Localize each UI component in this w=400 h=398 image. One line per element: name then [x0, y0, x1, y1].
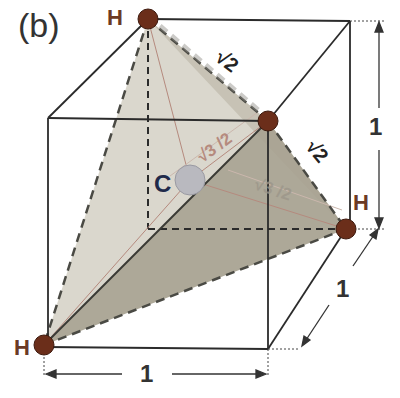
dimension-label-width: 1 — [140, 360, 153, 388]
panel-label: (b) — [18, 6, 60, 45]
hydrogen-atom-right-front — [258, 111, 278, 131]
hydrogen-atom-bottom-left — [34, 335, 54, 355]
dimension-label-height: 1 — [369, 113, 382, 141]
c-label: C — [154, 170, 171, 198]
carbon-atom — [175, 165, 205, 195]
h-label-right-back: H — [353, 190, 369, 216]
h-label-top: H — [107, 5, 123, 31]
hydrogen-atom-top — [138, 9, 158, 29]
tetrahedron-in-cube-diagram — [0, 0, 400, 398]
h-label-bottom-left: H — [14, 335, 30, 361]
hydrogen-atom-right-back — [336, 219, 356, 239]
dimension-label-depth: 1 — [336, 275, 349, 303]
